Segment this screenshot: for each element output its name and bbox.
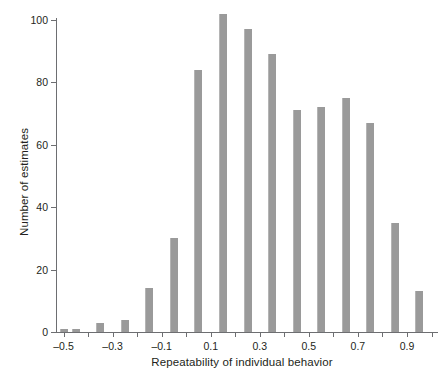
x-axis-tick <box>382 333 383 337</box>
x-axis-tick <box>333 333 334 337</box>
histogram-bar <box>170 238 178 332</box>
x-axis-tick <box>235 333 236 337</box>
y-axis-tick-label: 100 <box>18 14 48 26</box>
histogram-bar <box>121 320 129 332</box>
x-axis-tick <box>211 333 212 337</box>
y-axis-tick-label: 80 <box>18 76 48 88</box>
x-axis-tick-label: –0.3 <box>93 340 133 352</box>
y-axis-tick-label: 40 <box>18 201 48 213</box>
x-axis-tick-label: 0.3 <box>240 340 280 352</box>
y-axis-tick <box>51 145 56 146</box>
x-axis-tick <box>260 333 261 337</box>
histogram-bar <box>293 110 301 332</box>
histogram-bar <box>60 329 68 332</box>
x-axis-tick <box>113 333 114 337</box>
y-axis-tick <box>51 20 56 21</box>
histogram-bar <box>415 291 423 332</box>
y-axis-tick <box>51 332 56 333</box>
histogram-bar <box>194 70 202 332</box>
x-axis-tick-label: 0.9 <box>387 340 427 352</box>
y-axis-tick <box>51 82 56 83</box>
y-axis-tick-label: 60 <box>18 139 48 151</box>
x-axis-title: Repeatability of individual behavior <box>46 356 438 368</box>
y-axis-tick <box>51 270 56 271</box>
histogram-bar <box>96 323 104 332</box>
histogram-bar <box>366 123 374 332</box>
x-axis-tick <box>284 333 285 337</box>
x-axis-tick <box>358 333 359 337</box>
histogram-bar <box>317 107 325 332</box>
histogram-chart: Number of estimates 020406080100 –0.5–0.… <box>0 0 443 379</box>
x-axis-tick <box>137 333 138 337</box>
histogram-bar <box>244 29 252 332</box>
y-axis-line <box>56 18 57 333</box>
histogram-bar <box>145 288 153 332</box>
y-axis-tick <box>51 207 56 208</box>
histogram-bar <box>268 54 276 332</box>
x-axis-tick <box>88 333 89 337</box>
x-axis-tick-label: 0.1 <box>191 340 231 352</box>
histogram-bar <box>219 14 227 332</box>
x-axis-tick-label: –0.1 <box>142 340 182 352</box>
y-axis-tick-label: 20 <box>18 264 48 276</box>
y-axis-tick-label: 0 <box>18 326 48 338</box>
x-axis-tick <box>432 333 433 337</box>
x-axis-tick <box>407 333 408 337</box>
x-axis-tick-label: 0.5 <box>289 340 329 352</box>
y-axis-title: Number of estimates <box>18 102 30 262</box>
histogram-bar <box>72 329 80 332</box>
x-axis-tick-label: 0.7 <box>338 340 378 352</box>
x-axis-tick-label: –0.5 <box>44 340 84 352</box>
x-axis-tick <box>162 333 163 337</box>
histogram-bar <box>342 98 350 332</box>
x-axis-tick <box>186 333 187 337</box>
x-axis-tick <box>309 333 310 337</box>
x-axis-tick <box>64 333 65 337</box>
histogram-bar <box>391 223 399 332</box>
